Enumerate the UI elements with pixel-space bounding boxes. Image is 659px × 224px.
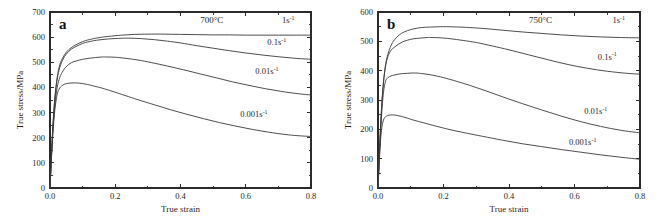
- x-tick-label: 0.2: [438, 191, 449, 201]
- x-tick-label: 0.6: [240, 191, 251, 201]
- curve-0.1s-1: [50, 38, 311, 188]
- figure-container: 01002003004005006007000.00.20.40.60.8Tru…: [0, 0, 659, 224]
- x-tick-label: 0.4: [504, 191, 515, 201]
- strain-rate-label-1s-1: 1s-1: [612, 15, 625, 25]
- panel-letter: a: [59, 16, 67, 32]
- x-tick-label: 0.8: [306, 191, 317, 201]
- temperature-label: 700°C: [200, 15, 223, 25]
- strain-rate-label-1s-1: 1s-1: [282, 15, 295, 25]
- y-tick-label: 200: [360, 124, 373, 134]
- x-tick-label: 0.6: [569, 191, 580, 201]
- y-tick-label: 500: [360, 36, 373, 46]
- x-axis-title: True strain: [161, 204, 200, 214]
- strain-rate-label-0.1s-1: 0.1s-1: [267, 37, 286, 47]
- strain-rate-label-0.001s-1: 0.001s-1: [240, 109, 267, 119]
- temperature-label: 750°C: [529, 15, 552, 25]
- strain-rate-label-0.01s-1: 0.01s-1: [584, 106, 607, 116]
- x-tick-label: 0.0: [45, 191, 56, 201]
- strain-rate-label-0.1s-1: 0.1s-1: [598, 51, 617, 61]
- y-tick-label: 400: [32, 82, 45, 92]
- x-tick-label: 0.0: [373, 191, 384, 201]
- chart-panel-a: 01002003004005006007000.00.20.40.60.8Tru…: [0, 0, 330, 224]
- curve-0.001s-1: [50, 83, 311, 188]
- x-tick-label: 0.8: [635, 191, 646, 201]
- y-tick-label: 300: [360, 95, 373, 105]
- chart-panel-b: 01002003004005006000.00.20.40.60.8True s…: [330, 0, 659, 224]
- panel-letter: b: [387, 16, 395, 32]
- y-tick-label: 100: [32, 158, 45, 168]
- y-tick-label: 300: [32, 108, 45, 118]
- x-tick-label: 0.2: [110, 191, 121, 201]
- x-axis-title: True strain: [490, 204, 529, 214]
- curve-0.01s-1: [378, 73, 640, 188]
- x-tick-label: 0.4: [175, 191, 186, 201]
- y-tick-label: 500: [32, 57, 45, 67]
- curve-0.001s-1: [378, 115, 640, 188]
- curve-0.01s-1: [50, 57, 311, 188]
- y-tick-label: 100: [360, 154, 373, 164]
- y-tick-label: 600: [360, 7, 373, 17]
- curve-1s-1: [50, 34, 311, 188]
- y-tick-label: 400: [360, 66, 373, 76]
- y-tick-label: 600: [32, 32, 45, 42]
- y-tick-label: 200: [32, 133, 45, 143]
- strain-rate-label-0.001s-1: 0.001s-1: [569, 137, 596, 147]
- y-axis-title: True stress/MPa: [343, 71, 353, 129]
- strain-rate-label-0.01s-1: 0.01s-1: [255, 66, 278, 76]
- y-tick-label: 700: [32, 7, 45, 17]
- y-axis-title: True stress/MPa: [15, 71, 25, 129]
